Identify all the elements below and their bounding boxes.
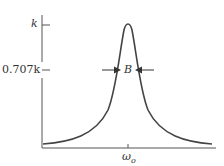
- omega-symbol: ω: [122, 150, 131, 163]
- y-label-half-power: 0.707k: [2, 64, 40, 75]
- bandwidth-label: B: [124, 64, 132, 75]
- omega-subscript: o: [131, 156, 136, 165]
- resonance-curve: [43, 24, 212, 144]
- x-label-center: ωo: [122, 151, 136, 165]
- y-label-k: k: [31, 18, 38, 29]
